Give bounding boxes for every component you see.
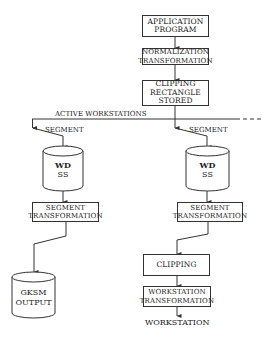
left-segtrans-line-2: TRANSFORMATION [28,212,102,221]
gksm-output-text: GKSMOUTPUT [12,288,55,308]
normalization-transformation-box: NORMALIZATIONTRANSFORMATION [142,48,209,65]
right-wdss-text: WDSS [186,160,229,180]
cliprect-line-3: STORED [150,97,201,106]
gksm-line-2: OUTPUT [12,298,55,308]
active-workstations-label: ACTIVE WORKSTATIONS [55,110,147,118]
left-wdss-line-2: SS [43,170,83,180]
workstation-label: WORKSTATION [145,318,210,327]
clipping-text: CLIPPING [156,261,196,270]
app-line-2: PROGRAM [148,26,204,35]
right-segtrans-line-1: SEGMENT [173,204,247,213]
norm-line-1: NORMALIZATION [138,48,212,57]
right-segtrans-line-2: TRANSFORMATION [173,212,247,221]
workstation-transformation-box: WORKSTATIONTRANSFORMATION [143,286,211,307]
norm-line-2: TRANSFORMATION [138,57,212,66]
right-wdss-line-2: SS [186,170,229,180]
right-segment-label: SEGMENT [189,126,228,134]
application-program-box: APPLICATIONPROGRAM [142,15,209,37]
clipping-rectangle-stored-box: CLIPPINGRECTANGLESTORED [142,80,209,106]
right-segment-transformation-box: SEGMENTTRANSFORMATION [177,202,243,222]
wstrans-line-2: TRANSFORMATION [140,297,214,306]
left-segment-transformation-box: SEGMENTTRANSFORMATION [32,202,99,222]
gksm-line-1: GKSM [12,288,55,298]
left-wdss-text: WDSS [43,160,83,180]
clipping-box: CLIPPING [143,254,210,276]
left-wdss-line-1: WD [43,160,83,170]
wstrans-line-1: WORKSTATION [140,288,214,297]
left-segment-label: SEGMENT [45,126,84,134]
left-segtrans-line-1: SEGMENT [28,204,102,213]
right-wdss-line-1: WD [186,160,229,170]
